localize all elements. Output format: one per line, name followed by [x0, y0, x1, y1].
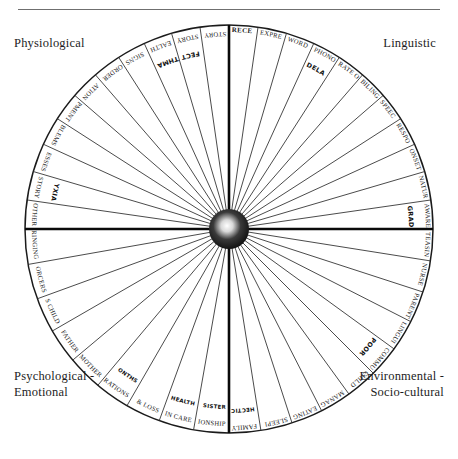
quadrant-label-physiological: Physiological: [14, 36, 85, 52]
wheel-hub: [209, 209, 249, 249]
page-root: OTHERBIRTH HISTORYASPHYXIASPEECH MOTOR P…: [0, 0, 458, 459]
quadrant-label-psychological: Psychological - Emotional: [14, 369, 94, 400]
quadrant-label-linguistic: Linguistic: [383, 36, 436, 52]
quadrant-label-environmental: Environmental - Socio-cultural: [359, 369, 444, 400]
